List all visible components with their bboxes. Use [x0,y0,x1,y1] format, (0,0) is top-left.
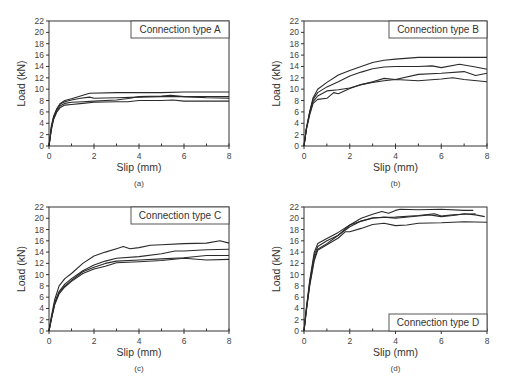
y-tick-label: 20 [290,213,300,223]
y-axis-title: Load (kN) [270,60,282,106]
y-tick-label: 14 [35,61,45,71]
y-tick-label: 6 [39,107,44,117]
y-tick-label: 22 [35,202,45,212]
x-tick-label: 2 [347,151,352,161]
x-tick-label: 6 [439,151,444,161]
y-tick-label: 18 [35,39,45,49]
x-tick-label: 0 [302,151,307,161]
y-tick-label: 2 [294,315,299,325]
x-tick-label: 6 [439,336,444,346]
y-tick-label: 8 [39,281,44,291]
y-tick-label: 10 [290,270,300,280]
chart-title: Connection type A [139,24,220,35]
panel-label: (b) [391,179,401,188]
y-tick-label: 6 [294,107,299,117]
x-axis-title: Slip (mm) [117,346,162,358]
y-tick-label: 18 [35,225,45,235]
x-tick-label: 8 [485,336,490,346]
x-tick-label: 0 [47,151,52,161]
y-tick-label: 10 [35,270,45,280]
y-tick-label: 4 [39,118,44,128]
y-tick-label: 16 [290,236,300,246]
y-tick-label: 16 [35,236,45,246]
y-tick-label: 14 [35,247,45,257]
x-axis-title: Slip (mm) [373,346,418,358]
x-tick-label: 6 [182,336,187,346]
y-tick-label: 14 [290,61,300,71]
y-tick-label: 2 [294,130,299,140]
x-axis-title: Slip (mm) [117,161,162,173]
y-tick-label: 22 [35,16,45,26]
x-tick-label: 2 [92,151,97,161]
y-tick-label: 10 [35,84,45,94]
x-tick-label: 6 [182,151,187,161]
y-tick-label: 4 [39,303,44,313]
data-series-line [304,57,487,146]
y-tick-label: 4 [294,118,299,128]
data-series-line [49,256,229,332]
data-series-line [304,209,473,331]
chart-title: Connection type B [397,24,479,35]
chart-title: Connection type C [139,210,221,221]
y-tick-label: 0 [39,141,44,151]
y-tick-label: 16 [35,50,45,60]
y-tick-label: 0 [39,326,44,336]
x-tick-label: 4 [137,336,142,346]
data-series-line [304,214,485,331]
data-series-line [304,78,487,146]
panel-label: (c) [134,364,144,373]
y-tick-label: 12 [35,73,45,83]
y-tick-label: 20 [35,27,45,37]
x-tick-label: 0 [302,336,307,346]
y-tick-label: 22 [290,16,300,26]
y-axis-title: Load (kN) [15,246,27,292]
panel-label: (a) [134,179,144,188]
y-tick-label: 12 [290,73,300,83]
y-tick-label: 20 [290,27,300,37]
data-series-line [304,72,487,146]
data-series-line [49,95,229,146]
plot-frame [49,21,229,146]
x-tick-label: 0 [47,336,52,346]
x-tick-label: 8 [485,151,490,161]
y-tick-label: 2 [39,130,44,140]
y-tick-label: 6 [294,292,299,302]
y-tick-label: 12 [35,258,45,268]
panel-b: 024681012141618202202468Slip (mm)Load (k… [270,16,490,188]
data-series-line [49,241,229,331]
y-tick-label: 18 [290,225,300,235]
data-series-line [49,100,229,146]
x-tick-label: 4 [137,151,142,161]
panel-label: (d) [391,364,401,373]
data-series-line [304,214,476,331]
x-axis-title: Slip (mm) [373,161,418,173]
y-tick-label: 14 [290,247,300,257]
y-tick-label: 6 [39,292,44,302]
x-tick-label: 2 [92,336,97,346]
x-tick-label: 4 [393,151,398,161]
y-axis-title: Load (kN) [15,60,27,106]
y-tick-label: 10 [290,84,300,94]
x-tick-label: 2 [347,336,352,346]
y-tick-label: 8 [294,96,299,106]
chart-title: Connection type D [397,317,479,328]
panel-d: 024681012141618202202468Slip (mm)Load (k… [270,202,490,373]
panel-c: 024681012141618202202468Slip (mm)Load (k… [15,202,232,373]
panel-a: 024681012141618202202468Slip (mm)Load (k… [15,16,232,188]
y-axis-title: Load (kN) [270,246,282,292]
figure-canvas: 024681012141618202202468Slip (mm)Load (k… [0,0,505,388]
x-tick-label: 4 [393,336,398,346]
plot-frame [304,21,487,146]
y-tick-label: 8 [294,281,299,291]
y-tick-label: 0 [294,141,299,151]
y-tick-label: 8 [39,96,44,106]
x-tick-label: 8 [227,151,232,161]
y-tick-label: 20 [35,213,45,223]
y-tick-label: 22 [290,202,300,212]
y-tick-label: 12 [290,258,300,268]
y-tick-label: 2 [39,315,44,325]
y-tick-label: 0 [294,326,299,336]
y-tick-label: 18 [290,39,300,49]
x-tick-label: 8 [227,336,232,346]
y-tick-label: 4 [294,303,299,313]
